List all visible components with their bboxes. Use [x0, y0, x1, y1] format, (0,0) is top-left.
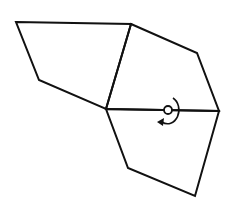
- rotation-marker: [157, 98, 179, 126]
- pivot-circle-icon: [164, 106, 172, 114]
- rotation-arrowhead-icon: [157, 118, 164, 126]
- diagram-canvas: [0, 0, 228, 202]
- upper-right-face: [106, 24, 219, 111]
- upper-left-face: [16, 22, 131, 109]
